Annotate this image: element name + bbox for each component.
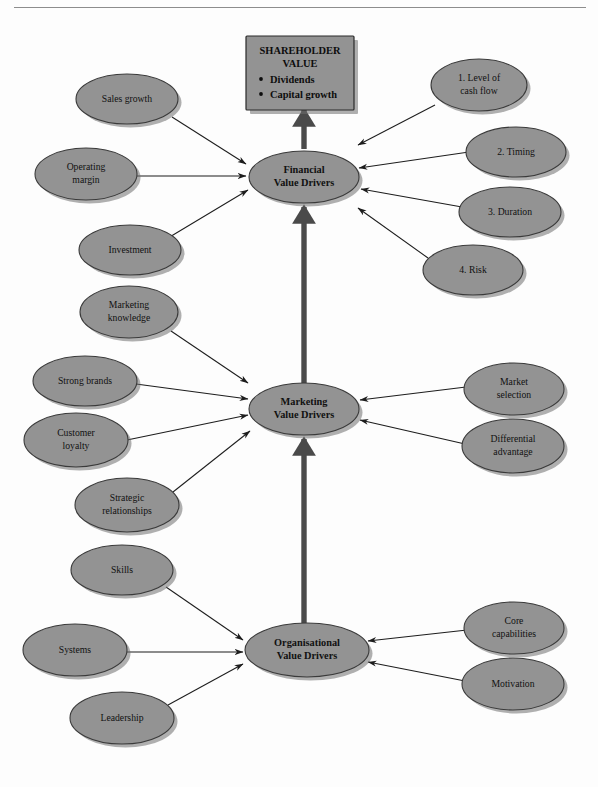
node-label-timing: 2. Timing	[497, 146, 535, 157]
arrow-market-selection	[360, 387, 466, 400]
node-skills[interactable]: Skills	[71, 545, 177, 599]
node-label-motivation: Motivation	[491, 678, 534, 689]
node-label-core-capabilities-line2: capabilities	[492, 628, 536, 639]
node-label-duration: 3. Duration	[488, 206, 532, 217]
node-label-strong-brands: Strong brands	[58, 375, 112, 386]
node-leadership[interactable]: Leadership	[70, 692, 178, 748]
node-label-risk: 4. Risk	[459, 264, 487, 275]
arrow-strong-brands	[136, 384, 248, 399]
node-market-selection[interactable]: Marketselection	[464, 363, 568, 419]
node-strong-brands[interactable]: Strong brands	[33, 356, 141, 410]
shareholder-bullet-capital-growth: Capital growth	[270, 89, 337, 100]
diagram-page: SHAREHOLDER VALUE Dividends Capital grow…	[0, 0, 598, 787]
shareholder-bullet-dividends: Dividends	[270, 74, 314, 85]
node-label-skills: Skills	[111, 564, 133, 575]
shareholder-value-diagram: SHAREHOLDER VALUE Dividends Capital grow…	[0, 0, 598, 787]
bullet-dot-capital-growth	[259, 92, 263, 96]
node-label-strategic-relationships-line2: relationships	[102, 505, 152, 516]
node-label-marketing-knowledge-line2: knowledge	[108, 312, 151, 323]
node-label-organisational-line1: Organisational	[274, 637, 340, 648]
arrow-customer-loyalty	[127, 415, 248, 440]
arrow-investment	[168, 190, 248, 238]
arrow-marketing-knowledge	[171, 331, 248, 383]
arrow-risk	[358, 208, 428, 258]
node-label-market-selection-line2: selection	[497, 389, 532, 400]
arrow-leadership	[168, 664, 243, 705]
node-label-core-capabilities-line1: Core	[505, 615, 524, 626]
node-label-investment: Investment	[108, 244, 151, 255]
node-label-marketing-line1: Marketing	[281, 396, 329, 407]
node-label-level-of-cash-flow-line1: 1. Level of	[458, 72, 501, 83]
node-financial[interactable]: FinancialValue Drivers	[249, 151, 363, 207]
arrow-sales-growth	[172, 117, 246, 164]
node-customer-loyalty[interactable]: Customerloyalty	[24, 413, 132, 471]
node-differential-advantage[interactable]: Differentialadvantage	[462, 419, 568, 477]
node-label-organisational-line2: Value Drivers	[277, 650, 338, 661]
node-operating-margin[interactable]: Operatingmargin	[35, 148, 141, 204]
shareholder-box-title-line1: SHAREHOLDER	[260, 45, 341, 56]
node-duration[interactable]: 3. Duration	[459, 187, 565, 241]
node-label-level-of-cash-flow-line2: cash flow	[460, 85, 497, 96]
node-strategic-relationships[interactable]: Strategicrelationships	[75, 478, 183, 536]
node-investment[interactable]: Investment	[79, 225, 185, 279]
node-marketing[interactable]: MarketingValue Drivers	[249, 383, 363, 439]
node-label-market-selection-line1: Market	[500, 376, 528, 387]
arrow-level-of-cash-flow	[358, 105, 435, 145]
node-label-operating-margin-line1: Operating	[67, 161, 106, 172]
arrow-timing	[359, 152, 469, 168]
arrow-differential-advantage	[360, 420, 465, 444]
arrow-core-capabilities	[368, 630, 467, 641]
bullet-dot-dividends	[259, 77, 263, 81]
shareholder-value-box: SHAREHOLDER VALUE Dividends Capital grow…	[246, 36, 358, 114]
node-label-financial-line1: Financial	[283, 164, 324, 175]
node-timing[interactable]: 2. Timing	[466, 127, 570, 181]
shareholder-box-title-line2: VALUE	[282, 58, 317, 69]
node-label-operating-margin-line2: margin	[72, 174, 99, 185]
node-label-systems: Systems	[59, 644, 92, 655]
node-label-strategic-relationships-line1: Strategic	[110, 492, 144, 503]
node-sales-growth[interactable]: Sales growth	[76, 74, 182, 128]
node-core-capabilities[interactable]: Corecapabilities	[464, 602, 568, 658]
node-label-marketing-line2: Value Drivers	[274, 409, 335, 420]
node-risk[interactable]: 4. Risk	[423, 245, 527, 299]
node-label-sales-growth: Sales growth	[102, 93, 152, 104]
node-organisational[interactable]: OrganisationalValue Drivers	[245, 623, 373, 681]
node-label-differential-advantage-line2: advantage	[493, 446, 532, 457]
node-label-customer-loyalty-line2: loyalty	[63, 440, 90, 451]
core-node-layer: FinancialValue DriversMarketingValue Dri…	[245, 151, 373, 681]
arrow-strategic-relationships	[173, 431, 250, 492]
arrow-duration	[361, 189, 462, 207]
node-motivation[interactable]: Motivation	[462, 658, 568, 714]
arrow-skills	[166, 587, 243, 640]
arrow-motivation	[368, 662, 465, 681]
node-label-marketing-knowledge-line1: Marketing	[109, 299, 150, 310]
node-systems[interactable]: Systems	[23, 624, 131, 680]
node-marketing-knowledge[interactable]: Marketingknowledge	[80, 286, 182, 342]
node-level-of-cash-flow[interactable]: 1. Level ofcash flow	[431, 59, 531, 115]
node-label-financial-line2: Value Drivers	[274, 177, 335, 188]
node-label-differential-advantage-line1: Differential	[490, 433, 535, 444]
node-label-leadership: Leadership	[100, 712, 143, 723]
node-label-customer-loyalty-line1: Customer	[57, 427, 95, 438]
